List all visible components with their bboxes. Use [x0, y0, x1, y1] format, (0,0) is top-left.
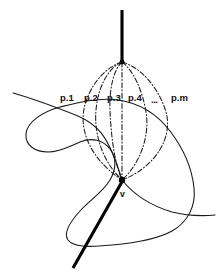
- surface-patch-outline: [26, 99, 194, 246]
- path-label-p4: p.4: [128, 92, 142, 103]
- path-label-pm: p.m: [171, 92, 188, 103]
- figure-container: p.1 p.2 p.3 p.4 ... p.m v: [0, 0, 217, 280]
- geodesic-arc-p2: [96, 62, 122, 180]
- path-label-p3: p.3: [107, 92, 121, 103]
- geodesic-diagram: p.1 p.2 p.3 p.4 ... p.m v: [0, 0, 217, 280]
- apex-point: [120, 60, 125, 65]
- vertex-label-v: v: [120, 189, 125, 199]
- path-label-p2: p.2: [84, 92, 98, 103]
- path-label-p1: p.1: [60, 92, 74, 103]
- geodesic-arc-p5: [122, 62, 147, 180]
- tangent-vector-line: [73, 180, 123, 268]
- vertex-point-v: [119, 177, 125, 183]
- path-label-ellipsis: ...: [151, 94, 157, 105]
